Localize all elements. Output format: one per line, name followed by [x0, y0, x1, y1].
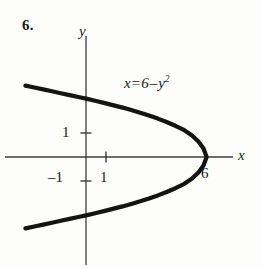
problem-number: 6. — [22, 18, 34, 33]
equation-variable: y — [158, 75, 165, 91]
tick-label-x-6: 6 — [201, 166, 209, 181]
tick-label-x-1: 1 — [100, 170, 108, 185]
tick-label-y-minus-1: –1 — [48, 170, 63, 185]
y-axis-label: y — [79, 24, 86, 39]
figure-panel: 6. y x 1 –1 1 6 x=6–y2 — [0, 0, 262, 268]
equation-annotation: x=6–y2 — [124, 76, 170, 91]
equation-minus: – — [149, 75, 159, 91]
equation-lhs: x — [124, 75, 131, 91]
equation-equals: = — [131, 75, 141, 91]
x-axis-label: x — [238, 148, 245, 163]
equation-constant: 6 — [141, 75, 149, 91]
equation-exponent: 2 — [165, 74, 170, 84]
tick-label-y-1: 1 — [62, 125, 70, 140]
parabola-figure — [0, 0, 262, 268]
